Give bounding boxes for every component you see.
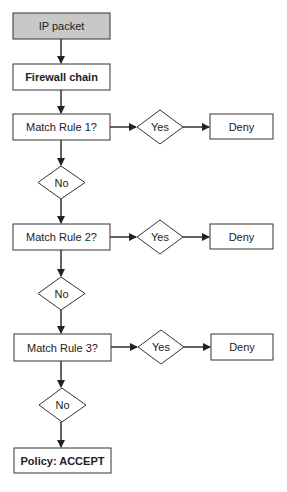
match-rule-3-label: Match Rule 3? bbox=[27, 342, 98, 354]
deny-1-label: Deny bbox=[229, 121, 255, 133]
ip-packet-label: IP packet bbox=[39, 20, 85, 32]
firewall-flowchart: IP packet Firewall chain Match Rule 1? Y… bbox=[0, 0, 287, 492]
node-no-3: No bbox=[39, 388, 86, 422]
node-deny-1: Deny bbox=[210, 114, 273, 139]
node-no-1: No bbox=[38, 166, 85, 199]
yes-2-label: Yes bbox=[151, 231, 169, 243]
node-firewall-chain: Firewall chain bbox=[13, 64, 110, 90]
firewall-chain-label: Firewall chain bbox=[25, 71, 98, 83]
node-no-2: No bbox=[38, 277, 85, 310]
node-match-rule-3: Match Rule 3? bbox=[14, 334, 111, 361]
node-ip-packet: IP packet bbox=[13, 13, 110, 39]
node-yes-1: Yes bbox=[137, 110, 183, 144]
no-2-label: No bbox=[54, 288, 68, 300]
node-match-rule-2: Match Rule 2? bbox=[13, 224, 110, 250]
yes-1-label: Yes bbox=[151, 121, 169, 133]
node-yes-2: Yes bbox=[137, 220, 183, 254]
deny-2-label: Deny bbox=[229, 231, 255, 243]
policy-accept-label: Policy: ACCEPT bbox=[21, 455, 105, 467]
node-policy-accept: Policy: ACCEPT bbox=[14, 448, 111, 473]
match-rule-2-label: Match Rule 2? bbox=[26, 231, 97, 243]
node-deny-3: Deny bbox=[211, 334, 273, 360]
node-yes-3: Yes bbox=[138, 330, 184, 364]
node-deny-2: Deny bbox=[210, 224, 273, 249]
match-rule-1-label: Match Rule 1? bbox=[26, 121, 97, 133]
no-3-label: No bbox=[55, 399, 69, 411]
node-match-rule-1: Match Rule 1? bbox=[13, 114, 110, 140]
no-1-label: No bbox=[54, 177, 68, 189]
yes-3-label: Yes bbox=[152, 341, 170, 353]
deny-3-label: Deny bbox=[229, 341, 255, 353]
